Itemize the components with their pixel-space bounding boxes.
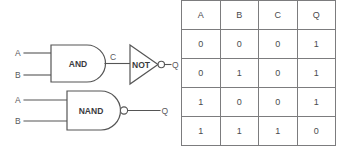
cell-c: 0 xyxy=(259,30,298,59)
table-row: 0 1 0 1 xyxy=(182,59,336,88)
label-and-input-b: B xyxy=(15,70,21,80)
truth-table-panel: A B C Q 0 0 0 1 0 1 0 1 xyxy=(181,0,336,141)
label-nand-input-b: B xyxy=(15,116,21,126)
cell-a: 1 xyxy=(182,117,221,146)
label-intermediate-c: C xyxy=(110,52,116,62)
column-header-b: B xyxy=(220,1,259,30)
cell-c: 0 xyxy=(259,59,298,88)
cell-a: 0 xyxy=(182,30,221,59)
nand-gate-bubble-icon xyxy=(120,107,127,114)
label-nand-gate: NAND xyxy=(79,106,104,116)
table-row: 0 0 0 1 xyxy=(182,30,336,59)
label-not-gate: NOT xyxy=(132,60,151,70)
column-header-q: Q xyxy=(297,1,336,30)
cell-q: 0 xyxy=(297,117,336,146)
circuit-svg: A B C Q AND NOT A B Q NAND xyxy=(0,0,180,150)
table-row: 1 1 1 0 xyxy=(182,117,336,146)
cell-b: 0 xyxy=(220,30,259,59)
truth-table-head: A B C Q xyxy=(182,1,336,30)
label-nand-input-a: A xyxy=(15,95,21,105)
column-header-c: C xyxy=(259,1,298,30)
cell-q: 1 xyxy=(297,88,336,117)
cell-b: 1 xyxy=(220,59,259,88)
page-root: A B C Q AND NOT A B Q NAND xyxy=(0,0,348,150)
cell-a: 0 xyxy=(182,59,221,88)
cell-b: 1 xyxy=(220,117,259,146)
logic-circuit-diagram: A B C Q AND NOT A B Q NAND xyxy=(0,0,180,150)
truth-table-body: 0 0 0 1 0 1 0 1 1 0 0 1 1 xyxy=(182,30,336,146)
truth-table: A B C Q 0 0 0 1 0 1 0 1 xyxy=(181,0,336,146)
cell-q: 1 xyxy=(297,30,336,59)
label-nand-output-q: Q xyxy=(162,106,169,116)
label-not-output-q: Q xyxy=(172,60,179,70)
table-header-row: A B C Q xyxy=(182,1,336,30)
cell-c: 1 xyxy=(259,117,298,146)
column-header-a: A xyxy=(182,1,221,30)
cell-b: 0 xyxy=(220,88,259,117)
not-gate-bubble-icon xyxy=(158,61,164,67)
label-and-input-a: A xyxy=(15,48,21,58)
cell-c: 0 xyxy=(259,88,298,117)
cell-q: 1 xyxy=(297,59,336,88)
table-row: 1 0 0 1 xyxy=(182,88,336,117)
label-and-gate: AND xyxy=(69,59,87,69)
cell-a: 1 xyxy=(182,88,221,117)
